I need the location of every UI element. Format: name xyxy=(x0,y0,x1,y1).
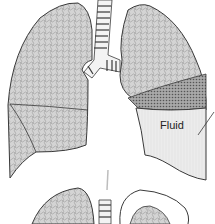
lung-diagram xyxy=(0,0,215,224)
left-lung xyxy=(120,5,206,110)
bottom-panel-lungs xyxy=(32,188,189,224)
fluid-label: Fluid xyxy=(160,119,184,131)
right-lung xyxy=(8,3,92,178)
down-arrow-icon xyxy=(107,170,108,190)
